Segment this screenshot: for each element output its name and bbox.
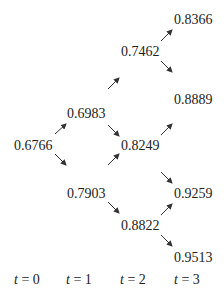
- time-var: t: [174, 272, 178, 287]
- arrow-t1a-down: [108, 125, 119, 136]
- time-label-0: t = 0: [14, 272, 40, 288]
- arrow-t1b-down: [108, 202, 119, 213]
- time-label-2: t = 2: [120, 272, 146, 288]
- arrow-t0-up: [55, 124, 66, 134]
- node-t3-1: 0.8889: [174, 92, 213, 108]
- node-t3-3: 0.9513: [174, 250, 213, 266]
- node-t3-0: 0.8366: [174, 12, 213, 28]
- time-label-1: t = 1: [66, 272, 92, 288]
- arrow-t2a-up: [161, 30, 172, 41]
- arrow-t1b-up: [108, 154, 119, 165]
- time-var: t: [14, 272, 18, 287]
- node-t2-2: 0.8822: [121, 218, 160, 234]
- time-value: = 0: [21, 272, 39, 287]
- arrow-t2b-up: [161, 124, 172, 135]
- arrow-t2a-down: [161, 61, 172, 72]
- arrow-t0-down: [55, 154, 66, 165]
- time-value: = 1: [73, 272, 91, 287]
- time-label-3: t = 3: [174, 272, 200, 288]
- arrow-t1a-up: [108, 78, 119, 89]
- node-t3-2: 0.9259: [174, 186, 213, 202]
- node-t0-0: 0.6766: [14, 138, 53, 154]
- node-t1-1: 0.7903: [67, 186, 106, 202]
- arrow-t2b-down: [161, 172, 172, 183]
- time-var: t: [66, 272, 70, 287]
- node-t2-0: 0.7462: [121, 44, 160, 60]
- arrow-t2c-down: [161, 235, 172, 246]
- time-value: = 2: [127, 272, 145, 287]
- time-value: = 3: [181, 272, 199, 287]
- node-t2-1: 0.8249: [121, 138, 160, 154]
- time-var: t: [120, 272, 124, 287]
- node-t1-0: 0.6983: [67, 106, 106, 122]
- arrow-t2c-up: [161, 204, 172, 215]
